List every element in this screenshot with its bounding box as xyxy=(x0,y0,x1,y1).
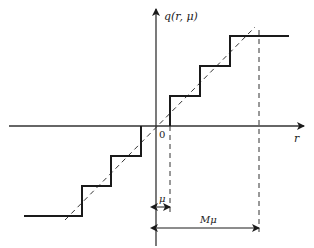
identity-dashed-line xyxy=(65,27,255,220)
mu-label: μ xyxy=(159,193,166,204)
y-axis-label: q(r, μ) xyxy=(164,10,198,23)
staircase-positive xyxy=(170,36,289,126)
x-axis-label: r xyxy=(294,132,300,145)
Mmu-label: Mμ xyxy=(199,214,217,225)
quantizer-diagram: q(r, μ) r 0 μ Mμ xyxy=(0,0,314,248)
origin-label: 0 xyxy=(159,129,165,140)
staircase-negative xyxy=(24,126,141,216)
